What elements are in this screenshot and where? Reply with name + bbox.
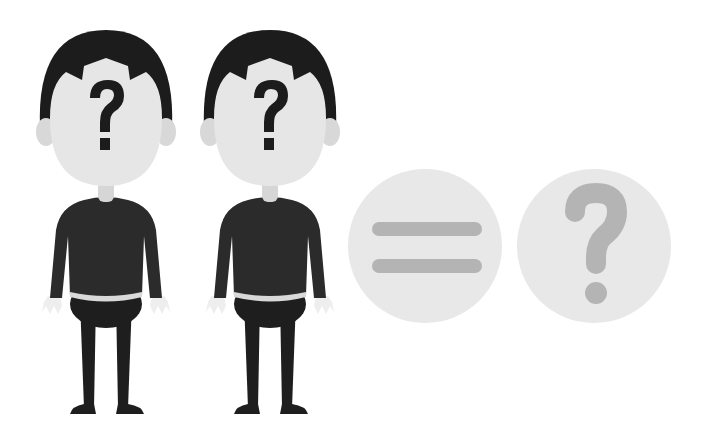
person-figure: [36, 30, 176, 414]
equals-badge: [348, 169, 502, 323]
person-figure: [200, 30, 340, 414]
illustration: [0, 0, 707, 445]
question-mark-dot: [585, 282, 607, 304]
question-badge: [517, 169, 671, 323]
